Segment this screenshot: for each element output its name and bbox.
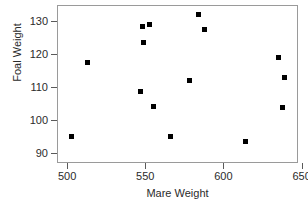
data-point	[280, 105, 285, 110]
x-axis-label: Mare Weight	[57, 188, 298, 199]
x-axis-tick-label: 500	[44, 171, 90, 182]
data-point	[140, 24, 145, 29]
data-point	[69, 134, 74, 139]
x-axis-tick-label: 650	[279, 171, 308, 182]
x-axis-tick	[67, 163, 68, 169]
y-axis-tick-label: 90	[8, 148, 48, 159]
data-point	[282, 75, 287, 80]
scatter-plot: 90100110120130500550600650 Mare Weight F…	[0, 0, 308, 208]
x-axis-tick	[145, 163, 146, 169]
data-point	[138, 89, 143, 94]
y-axis-tick-label: 100	[8, 115, 48, 126]
data-point	[196, 12, 201, 17]
data-point	[243, 139, 248, 144]
data-point	[85, 60, 90, 65]
data-point	[202, 27, 207, 32]
y-axis-tick	[51, 87, 57, 88]
data-point	[187, 78, 192, 83]
x-axis-tick-label: 600	[200, 171, 246, 182]
data-point	[276, 55, 281, 60]
y-axis-label: Foal Weight	[12, 0, 23, 108]
y-axis-tick	[51, 21, 57, 22]
x-axis-tick	[302, 163, 303, 169]
data-point	[147, 22, 152, 27]
plot-area	[57, 5, 298, 163]
y-axis-tick	[51, 120, 57, 121]
x-axis-tick	[223, 163, 224, 169]
y-axis-tick	[51, 153, 57, 154]
data-point	[141, 40, 146, 45]
y-axis-tick	[51, 54, 57, 55]
x-axis-tick-label: 550	[122, 171, 168, 182]
data-point	[151, 104, 156, 109]
data-point	[168, 134, 173, 139]
